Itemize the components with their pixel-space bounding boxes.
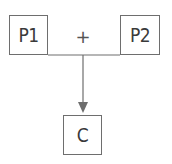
plus-operator: +	[74, 24, 92, 48]
diagram-canvas: P1 + P2 C	[0, 0, 172, 164]
node-label: P2	[130, 24, 150, 46]
node-label: P1	[18, 24, 38, 46]
node-parent-1: P1	[9, 15, 48, 55]
node-label: C	[77, 124, 88, 146]
arrowhead-down-icon	[78, 102, 88, 113]
node-parent-2: P2	[120, 15, 160, 55]
node-child: C	[63, 115, 102, 155]
